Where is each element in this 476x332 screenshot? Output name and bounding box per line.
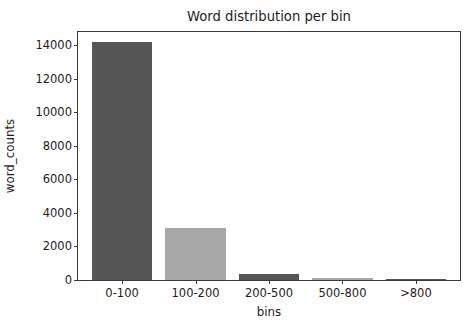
x-tick-label: 500-800: [318, 287, 366, 300]
y-tick-label: 10000: [35, 106, 72, 118]
y-tick-mark: [74, 112, 78, 113]
bar-100-200: [165, 228, 225, 280]
x-tick-label: 200-500: [245, 287, 293, 300]
plot-area: 020004000600080001000012000140000-100100…: [77, 31, 461, 281]
x-tick-label: 0-100: [105, 287, 138, 300]
y-tick-mark: [74, 213, 78, 214]
x-tick-label: 100-200: [172, 287, 220, 300]
chart-title: Word distribution per bin: [77, 9, 461, 25]
x-tick-label: >800: [400, 287, 432, 300]
y-tick-mark: [74, 146, 78, 147]
x-tick-mark: [122, 280, 123, 284]
y-tick-label: 14000: [35, 39, 72, 51]
bars-layer: [78, 32, 460, 280]
x-tick-mark: [416, 280, 417, 284]
x-tick-mark: [269, 280, 270, 284]
y-tick-label: 2000: [43, 240, 72, 252]
y-tick-mark: [74, 179, 78, 180]
y-tick-mark: [74, 280, 78, 281]
y-tick-label: 0: [65, 274, 72, 286]
y-tick-label: 6000: [43, 173, 72, 185]
y-tick-mark: [74, 45, 78, 46]
bar-0-100: [92, 42, 152, 280]
x-tick-mark: [342, 280, 343, 284]
x-axis-label: bins: [77, 306, 461, 319]
x-tick-mark: [196, 280, 197, 284]
y-tick-label: 4000: [43, 207, 72, 219]
y-tick-mark: [74, 79, 78, 80]
chart-figure: Word distribution per bin word_counts 02…: [0, 0, 476, 332]
y-axis-label: word_counts: [4, 119, 17, 193]
y-tick-label: 12000: [35, 73, 72, 85]
y-tick-mark: [74, 246, 78, 247]
y-tick-label: 8000: [43, 140, 72, 152]
